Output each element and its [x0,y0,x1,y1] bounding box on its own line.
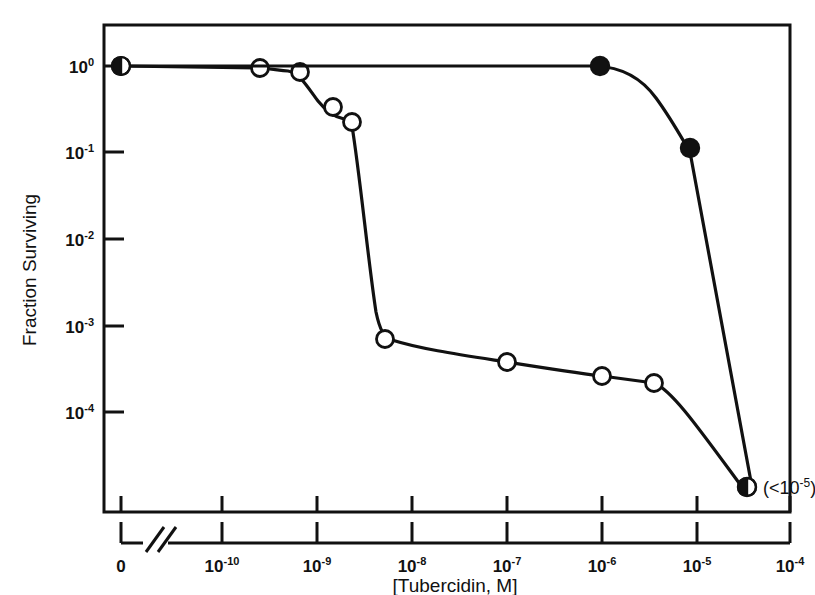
data-point-filled [591,57,609,75]
y-axis-title-group: Fraction Surviving [19,194,40,346]
x-axis-frame-ticks [121,496,790,512]
svg-text:10-3: 10-3 [65,316,94,337]
x-tick-exponent-0: -10 [224,555,240,567]
y-tick-exponent-2: -2 [84,229,94,241]
svg-text:10-7: 10-7 [493,555,522,576]
x-tick-mantissa-5: 10 [683,557,702,576]
less-than-annotation: (<10-5) [763,476,815,498]
x-tick-exponent-5: -5 [702,555,712,567]
x-tick-exponent-2: -8 [417,555,427,567]
annotation-suffix: ) [810,478,815,498]
svg-text:10-4: 10-4 [776,555,806,576]
series-resistant-cells [121,57,752,487]
series-resistant-line [121,66,752,487]
svg-text:100: 100 [69,56,94,77]
svg-text:10-4: 10-4 [65,402,95,423]
y-tick-exponent-3: -3 [84,316,94,328]
annotation-prefix: (<10 [763,478,800,498]
x-axis-title: [Tubercidin, M] [393,575,518,595]
svg-text:10-8: 10-8 [398,555,427,576]
chart-canvas: 100 10-1 10-2 10-3 10-4 Fraction Survivi… [0,0,815,595]
x-tick-mantissa-3: 10 [493,557,512,576]
data-point-open [344,114,361,131]
data-point-open [594,368,611,385]
x-tick-mantissa-2: 10 [398,557,417,576]
x-tick-exponent-4: -6 [607,555,617,567]
svg-text:10-6: 10-6 [588,555,617,576]
y-tick-exponent-4: -4 [84,402,95,414]
data-point-filled [681,139,699,157]
y-tick-mantissa-1: 10 [65,144,84,163]
data-point-open [377,331,394,348]
x-tick-mantissa-0: 10 [205,557,224,576]
y-tick-mantissa-3: 10 [65,318,84,337]
x-axis-ticks [222,522,790,543]
y-axis-ticks [104,66,124,412]
svg-text:10-2: 10-2 [65,229,94,250]
data-point-open [252,60,269,77]
svg-text:10-10: 10-10 [205,555,240,576]
y-tick-mantissa-0: 10 [69,58,88,77]
x-tick-exponent-3: -7 [512,555,522,567]
data-point-open [325,99,342,116]
data-point-open [499,354,516,371]
svg-text:10-5: 10-5 [683,555,712,576]
series-sensitive-cells [121,60,742,488]
y-axis-tick-labels: 100 10-1 10-2 10-3 10-4 [65,56,95,423]
x-tick-mantissa-6: 10 [776,557,795,576]
x-tick-mantissa-4: 10 [588,557,607,576]
x-tick-zero-label: 0 [116,557,125,576]
x-tick-exponent-6: -4 [795,555,806,567]
y-tick-exponent-1: -1 [84,142,94,154]
data-point-shared-origin [112,57,130,75]
svg-text:10-9: 10-9 [303,555,332,576]
plot-frame [104,25,790,512]
data-point-shared-convergence [738,478,756,496]
y-tick-exponent-0: 0 [88,56,94,68]
y-tick-mantissa-4: 10 [65,404,84,423]
series-sensitive-line [121,66,742,487]
y-tick-mantissa-2: 10 [65,231,84,250]
annotation-exponent: -5 [800,476,811,490]
y-axis-title: Fraction Surviving [19,194,40,346]
x-tick-exponent-1: -9 [322,555,332,567]
data-point-open [646,375,663,392]
x-tick-mantissa-1: 10 [303,557,322,576]
svg-text:10-1: 10-1 [65,142,94,163]
x-axis-tick-labels: 0 10-10 10-9 10-8 10-7 10-6 10-5 10-4 [116,555,805,576]
figure-container: 100 10-1 10-2 10-3 10-4 Fraction Survivi… [0,0,815,595]
